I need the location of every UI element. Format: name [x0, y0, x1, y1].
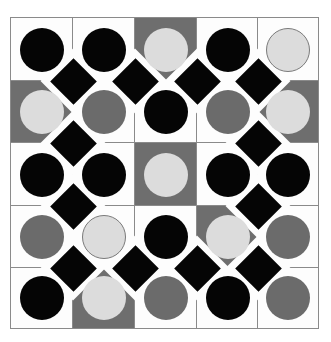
light-circle-piece[interactable] [20, 90, 64, 134]
black-circle-piece[interactable] [206, 276, 250, 320]
black-circle-piece[interactable] [82, 28, 126, 72]
light-circle-piece[interactable] [82, 276, 126, 320]
game-board [10, 17, 319, 329]
gray-circle-piece[interactable] [266, 215, 310, 259]
black-circle-piece[interactable] [266, 153, 310, 197]
black-circle-piece[interactable] [20, 276, 64, 320]
gray-circle-piece[interactable] [144, 276, 188, 320]
gray-circle-piece[interactable] [206, 90, 250, 134]
black-circle-piece[interactable] [206, 153, 250, 197]
gray-circle-piece[interactable] [266, 276, 310, 320]
black-circle-piece[interactable] [144, 215, 188, 259]
black-circle-piece[interactable] [20, 153, 64, 197]
gray-circle-piece[interactable] [82, 90, 126, 134]
light-circle-piece[interactable] [266, 28, 310, 72]
black-circle-piece[interactable] [82, 153, 126, 197]
light-circle-piece[interactable] [266, 90, 310, 134]
black-circle-piece[interactable] [206, 28, 250, 72]
black-circle-piece[interactable] [20, 28, 64, 72]
light-circle-piece[interactable] [144, 28, 188, 72]
black-circle-piece[interactable] [144, 90, 188, 134]
gray-circle-piece[interactable] [20, 215, 64, 259]
light-circle-piece[interactable] [82, 215, 126, 259]
light-circle-piece[interactable] [206, 215, 250, 259]
light-circle-piece[interactable] [144, 153, 188, 197]
